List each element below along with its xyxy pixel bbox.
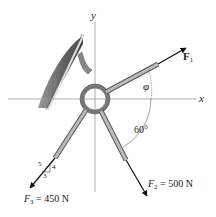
f2-label: F2 = 500 N xyxy=(148,179,193,191)
arrow-f2 xyxy=(126,160,147,196)
x-axis-label: x xyxy=(199,93,204,104)
f1-label: F1 xyxy=(183,51,193,64)
y-axis-label: y xyxy=(91,10,96,21)
slope-triangle xyxy=(42,163,50,172)
f3-label: F3 = 450 N xyxy=(24,194,69,206)
slope-vertical-label: 4 xyxy=(52,164,56,171)
sixty-arc xyxy=(123,99,151,147)
sixty-degree-label: 60° xyxy=(134,125,148,135)
phi-label: φ xyxy=(143,81,149,92)
slope-hypotenuse-label: 5 xyxy=(38,161,42,168)
bracket xyxy=(78,52,92,74)
arrow-f1 xyxy=(158,48,186,64)
slope-horizontal-label: 3 xyxy=(43,173,47,180)
